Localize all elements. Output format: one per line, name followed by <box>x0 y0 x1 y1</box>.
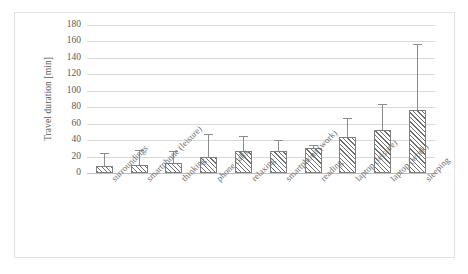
error-bar-line <box>278 141 279 151</box>
x-tick-label: surroundings <box>110 177 116 183</box>
y-tick-label-20: 20 <box>72 152 82 162</box>
error-bar-cap <box>204 134 213 135</box>
bar-group[interactable] <box>191 25 226 173</box>
error-bar-cap <box>239 136 248 137</box>
x-tick-label: reading <box>319 177 325 183</box>
y-axis-title-text: Travel duration [min] <box>43 57 53 141</box>
y-axis-title: Travel duration [min] <box>41 25 55 173</box>
error-bar-line <box>417 45 418 110</box>
y-tick-label-100: 100 <box>67 86 81 96</box>
error-bar-cap <box>100 153 109 154</box>
bar[interactable] <box>339 137 356 173</box>
error-bar-cap <box>378 104 387 105</box>
x-tick-label: laptop (work) <box>389 177 395 183</box>
error-bar-line <box>104 154 105 166</box>
y-tick-label-60: 60 <box>72 119 82 129</box>
y-tick-label-140: 140 <box>67 53 81 63</box>
y-tick-label-40: 40 <box>72 135 82 145</box>
bar-group[interactable] <box>261 25 296 173</box>
x-tick-label: laptop (leisure) <box>354 177 360 183</box>
x-tick-label: sleeping <box>424 177 430 183</box>
y-tick-label-0: 0 <box>76 168 81 178</box>
error-bar-line <box>347 119 348 137</box>
error-bar-cap <box>413 44 422 45</box>
x-tick-label: smartphone (leisure) <box>145 177 151 183</box>
bar[interactable] <box>96 166 113 173</box>
y-tick-label-160: 160 <box>67 37 81 47</box>
x-axis-labels: surroundingssmartphone (leisure)thinking… <box>87 177 435 257</box>
x-tick-label: smartphone (work) <box>284 177 290 183</box>
y-tick-label-180: 180 <box>67 20 81 30</box>
bar-group[interactable] <box>331 25 366 173</box>
error-bar-line <box>208 135 209 157</box>
y-tick-label-120: 120 <box>67 70 81 80</box>
error-bar-cap <box>274 140 283 141</box>
x-tick-label: relaxing <box>250 177 256 183</box>
bar-group[interactable] <box>87 25 122 173</box>
x-tick-label: thinking <box>180 177 186 183</box>
chart-frame: Travel duration [min] 180160140120100806… <box>14 12 455 258</box>
x-tick-label: phone calls <box>215 177 221 183</box>
y-tick-label-80: 80 <box>72 102 82 112</box>
error-bar-line <box>382 105 383 130</box>
error-bar-cap <box>343 118 352 119</box>
